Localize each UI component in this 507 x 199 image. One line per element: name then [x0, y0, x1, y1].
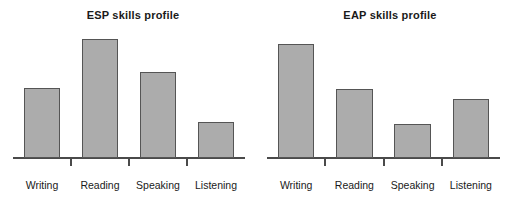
- x-axis-tick: [441, 159, 443, 166]
- plot-area-esp: WritingReadingSpeakingListening: [0, 0, 254, 199]
- x-axis-tick: [324, 159, 326, 166]
- x-axis-label-speaking: Speaking: [136, 179, 180, 191]
- x-axis-tick: [128, 159, 130, 166]
- plot-area-eap: WritingReadingSpeakingListening: [253, 0, 507, 199]
- bar-esp-writing: [24, 88, 61, 158]
- bar-eap-listening: [453, 99, 490, 158]
- x-axis-label-listening: Listening: [195, 179, 237, 191]
- x-axis-tick: [186, 159, 188, 166]
- x-axis-label-writing: Writing: [280, 179, 312, 191]
- bar-eap-writing: [278, 44, 315, 158]
- x-axis-label-reading: Reading: [80, 179, 119, 191]
- chart-panel-eap: EAP skills profile WritingReadingSpeakin…: [253, 0, 507, 199]
- chart-panel-esp: ESP skills profile WritingReadingSpeakin…: [0, 0, 254, 199]
- x-axis-tick: [383, 159, 385, 166]
- bar-esp-listening: [198, 122, 235, 158]
- bar-eap-speaking: [394, 124, 431, 158]
- x-axis-label-speaking: Speaking: [391, 179, 435, 191]
- bar-esp-reading: [82, 39, 119, 158]
- bar-eap-reading: [336, 89, 373, 158]
- skills-profile-figure: ESP skills profile WritingReadingSpeakin…: [0, 0, 507, 199]
- x-axis-label-listening: Listening: [450, 179, 492, 191]
- x-axis-tick: [70, 159, 72, 166]
- x-axis-label-writing: Writing: [26, 179, 58, 191]
- bar-esp-speaking: [140, 72, 177, 158]
- x-axis-label-reading: Reading: [335, 179, 374, 191]
